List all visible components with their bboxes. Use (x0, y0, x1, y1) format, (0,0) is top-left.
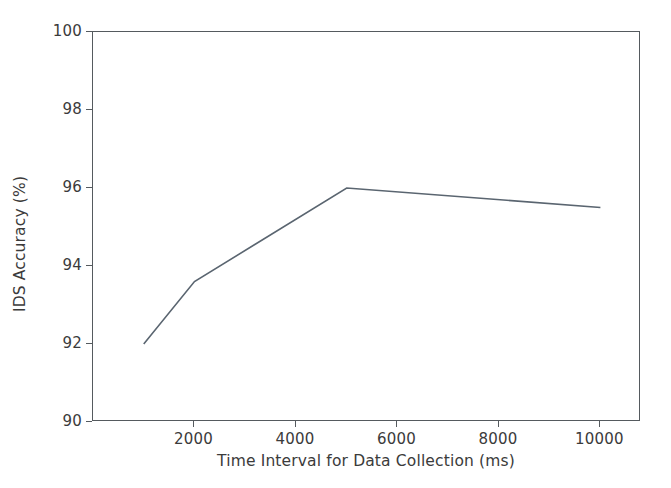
x-tick-label: 6000 (377, 430, 416, 448)
line-chart-figure: IDS Accuracy (%) 9092949698100 200040006… (0, 0, 671, 488)
y-tick-label: 92 (4, 334, 82, 352)
y-tick-label: 100 (4, 22, 82, 40)
x-tick-label: 10000 (575, 430, 624, 448)
x-tick-label-container: 6000 (346, 429, 446, 448)
x-tick-label: 8000 (478, 430, 517, 448)
data-line-svg (93, 32, 641, 422)
y-axis-title: IDS Accuracy (%) (11, 176, 29, 312)
y-tick-label-container: 100 (0, 22, 82, 40)
series-line-ids-accuracy (144, 188, 601, 344)
x-tick-label-container: 4000 (245, 429, 345, 448)
y-tick-label-container: 94 (0, 256, 82, 274)
y-tick-label-container: 92 (0, 334, 82, 352)
x-tick-label-container: 10000 (549, 429, 649, 448)
x-tick-label: 4000 (275, 430, 314, 448)
y-tick-label: 94 (4, 256, 82, 274)
x-tick-label-container: 2000 (143, 429, 243, 448)
plot-area (92, 31, 640, 421)
x-tick-label: 2000 (174, 430, 213, 448)
x-axis-title: Time Interval for Data Collection (ms) (92, 452, 640, 470)
y-tick-label: 90 (4, 412, 82, 430)
y-tick-label-container: 96 (0, 178, 82, 196)
x-tick-label-container: 8000 (448, 429, 548, 448)
y-tick-mark (86, 421, 92, 422)
y-tick-label: 98 (4, 100, 82, 118)
y-tick-label-container: 90 (0, 412, 82, 430)
y-tick-label: 96 (4, 178, 82, 196)
y-tick-label-container: 98 (0, 100, 82, 118)
